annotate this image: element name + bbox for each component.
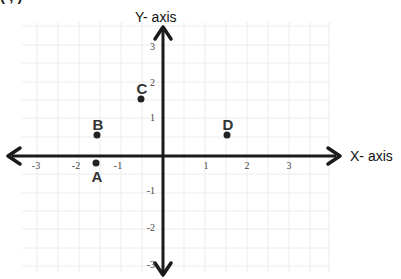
point-d-label: D <box>223 116 234 133</box>
point-b-label: B <box>93 116 104 133</box>
x-tick-m3: -3 <box>32 160 40 171</box>
x-tick-3: 3 <box>287 160 292 171</box>
y-axis-label: Y- axis <box>135 9 177 25</box>
point-d: D <box>223 116 234 139</box>
y-tick-1: 1 <box>150 112 155 123</box>
point-c: C <box>137 80 148 103</box>
point-c-label: C <box>137 80 148 97</box>
x-tick-1: 1 <box>204 160 209 171</box>
point-a: A <box>92 160 103 186</box>
point-b: B <box>93 116 104 139</box>
x-tick-m2: -2 <box>72 160 80 171</box>
y-tick-m1: -1 <box>147 185 155 196</box>
point-a-label: A <box>92 168 103 185</box>
point-a-marker <box>93 160 100 167</box>
y-axis <box>155 27 171 275</box>
y-tick-m3: -3 <box>147 259 155 270</box>
y-tick-3: 3 <box>150 41 155 52</box>
coordinate-plane: -3 -2 -1 1 2 3 3 2 1 -1 -2 -3 Y- axis X-… <box>0 0 401 279</box>
x-axis-label: X- axis <box>350 148 393 164</box>
x-tick-2: 2 <box>245 160 250 171</box>
grid <box>22 22 330 272</box>
y-tick-m2: -2 <box>147 222 155 233</box>
x-tick-m1: -1 <box>114 160 122 171</box>
y-tick-2: 2 <box>150 77 155 88</box>
